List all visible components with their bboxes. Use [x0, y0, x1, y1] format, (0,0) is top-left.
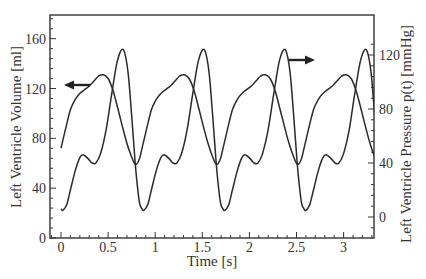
right-y-axis-label: Left Ventricle Pressure p(t) [mmHg]: [398, 25, 415, 243]
right-y-tick-label: 0: [379, 210, 386, 225]
x-tick-label: 3: [340, 240, 347, 255]
right-y-tick-label: 120: [379, 48, 400, 63]
x-tick-label: 1: [152, 240, 159, 255]
pressure-line: [61, 49, 391, 210]
right-y-tick-label: 80: [379, 102, 393, 117]
left-y-tick-label: 40: [32, 181, 46, 196]
chart: 00.511.522.53 04080120160 04080120 Time …: [0, 0, 426, 279]
x-tick-label: 2.5: [288, 240, 306, 255]
left-y-axis-ticks: 04080120160: [25, 19, 56, 246]
right-y-tick-label: 40: [379, 156, 393, 171]
x-axis-label: Time [s]: [187, 253, 238, 269]
left-y-tick-label: 80: [32, 131, 46, 146]
left-y-tick-label: 160: [25, 32, 46, 47]
volume-line: [61, 75, 390, 165]
left-y-tick-label: 0: [39, 231, 46, 246]
x-tick-label: 2: [246, 240, 253, 255]
series-layer: [61, 49, 391, 210]
x-axis-ticks: 00.511.522.53: [52, 232, 372, 255]
right-y-axis-ticks: 04080120: [368, 44, 400, 228]
x-tick-label: 0.5: [99, 240, 117, 255]
left-y-axis-label: Left Ventricle Volume [ml]: [8, 46, 24, 208]
left-y-tick-label: 120: [25, 82, 46, 97]
x-tick-label: 0: [58, 240, 65, 255]
plot-frame: [50, 15, 374, 238]
right-arrow-icon: [289, 56, 315, 65]
plot-border: [50, 15, 374, 238]
